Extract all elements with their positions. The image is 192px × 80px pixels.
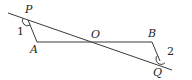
angle-2-arc <box>156 56 165 65</box>
label-angle-1: 1 <box>17 25 24 38</box>
segment-pa <box>28 20 37 42</box>
label-p: P <box>24 3 33 16</box>
label-b: B <box>147 27 156 40</box>
label-q: Q <box>153 66 162 79</box>
geometry-figure: P A O B Q 1 2 <box>0 0 192 80</box>
label-angle-2: 2 <box>167 45 174 58</box>
label-a: A <box>29 43 38 56</box>
label-o: O <box>91 28 100 41</box>
